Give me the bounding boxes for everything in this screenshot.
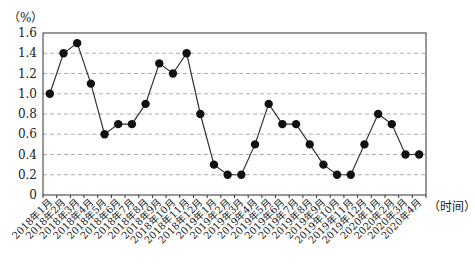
data-point-marker xyxy=(306,140,314,148)
y-tick-label: 1.6 xyxy=(18,26,37,40)
data-point-marker xyxy=(59,49,67,57)
data-point-marker xyxy=(196,110,204,118)
data-point-marker xyxy=(237,171,245,179)
data-point-marker xyxy=(360,140,368,148)
data-point-marker xyxy=(87,79,95,87)
gridlines xyxy=(43,53,426,175)
data-point-marker xyxy=(251,140,259,148)
data-point-marker xyxy=(141,100,149,108)
y-tick-label: 1.4 xyxy=(18,46,37,60)
data-point-marker xyxy=(401,150,409,158)
data-point-marker xyxy=(415,150,423,158)
data-point-marker xyxy=(388,120,396,128)
y-tick-label: 0.4 xyxy=(18,148,37,162)
y-tick-label: 1.0 xyxy=(18,87,37,101)
data-point-marker xyxy=(100,130,108,138)
data-series xyxy=(46,39,424,179)
y-tick-label: 1.2 xyxy=(18,67,37,81)
data-point-marker xyxy=(292,120,300,128)
x-axis-label: （时间） xyxy=(428,200,475,214)
data-point-marker xyxy=(155,59,163,67)
data-point-marker xyxy=(264,100,272,108)
y-axis-ticks: 00.20.40.60.81.01.21.41.6 xyxy=(18,26,37,202)
data-point-marker xyxy=(333,171,341,179)
data-point-marker xyxy=(73,39,81,47)
data-point-marker xyxy=(210,160,218,168)
y-tick-label: 0.2 xyxy=(18,168,37,182)
data-point-marker xyxy=(182,49,190,57)
y-axis-label: （%） xyxy=(8,11,43,25)
data-point-marker xyxy=(169,69,177,77)
data-point-marker xyxy=(128,120,136,128)
y-tick-label: 0 xyxy=(29,188,37,202)
data-point-marker xyxy=(46,90,54,98)
series-line xyxy=(50,43,419,175)
y-tick-label: 0.6 xyxy=(18,127,37,141)
data-point-marker xyxy=(374,110,382,118)
x-axis-ticks: 2018年1月2018年2月2018年3月2018年4月2018年5月2018年… xyxy=(9,195,426,246)
data-point-marker xyxy=(114,120,122,128)
line-chart: 00.20.40.60.81.01.21.41.6 2018年1月2018年2月… xyxy=(0,0,475,265)
y-tick-label: 0.8 xyxy=(18,107,37,121)
data-point-marker xyxy=(319,160,327,168)
data-point-marker xyxy=(278,120,286,128)
data-point-marker xyxy=(347,171,355,179)
data-point-marker xyxy=(223,171,231,179)
